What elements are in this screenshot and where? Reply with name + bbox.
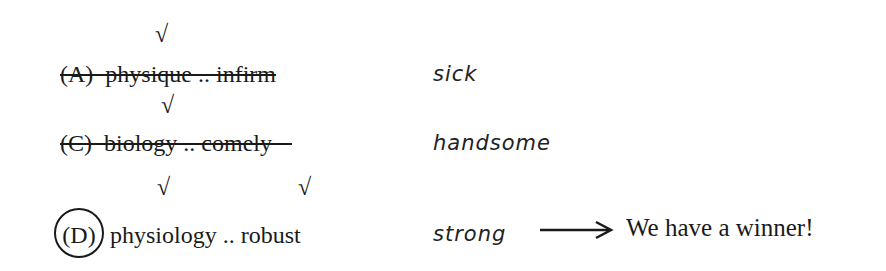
choice-separator: .. [183, 130, 195, 156]
choice-word2: comely [201, 130, 272, 156]
choice-label: (C) [60, 130, 92, 156]
struck-choice-c: (C) biology .. comely [60, 129, 292, 157]
choice-word2: infirm [216, 61, 276, 87]
choice-label: (A) [60, 61, 93, 87]
choice-row-a: (A) physique .. infirm [60, 60, 276, 88]
choice-row-d: (D) physiology .. robust [54, 208, 301, 258]
choice-word1: physiology [110, 222, 217, 248]
right-arrow-icon [540, 220, 614, 240]
choice-word1: biology [104, 130, 177, 156]
check-mark-d-word2: √ [298, 175, 311, 199]
check-mark-d-word1: √ [157, 175, 170, 199]
choice-separator: .. [223, 222, 235, 248]
choice-separator: .. [198, 61, 210, 87]
check-mark-a-word1: √ [155, 22, 168, 46]
handwritten-note-c: handsome [433, 131, 551, 155]
choice-word2: robust [241, 222, 301, 248]
struck-choice-a: (A) physique .. infirm [60, 60, 276, 88]
choice-word1: physique [105, 61, 192, 87]
check-mark-c-word1: √ [161, 93, 174, 117]
circled-choice-label: (D) [54, 208, 104, 258]
handwritten-note-d: strong [433, 222, 506, 246]
choice-row-c: (C) biology .. comely [60, 129, 292, 157]
handwritten-note-a: sick [433, 62, 477, 86]
conclusion-text: We have a winner! [626, 214, 813, 242]
